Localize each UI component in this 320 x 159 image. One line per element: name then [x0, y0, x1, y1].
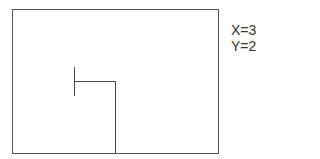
y-coordinate: Y=2: [231, 38, 256, 54]
x-coordinate: X=3: [231, 22, 256, 38]
coordinates-readout: X=3 Y=2: [231, 22, 256, 54]
robot-path: [75, 82, 116, 154]
